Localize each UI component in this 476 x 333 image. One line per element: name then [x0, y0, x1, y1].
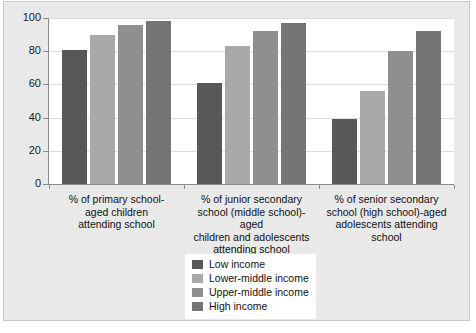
bar [416, 31, 441, 184]
legend-swatch-icon [192, 288, 203, 297]
bar [146, 21, 171, 184]
legend-swatch-icon [192, 302, 203, 311]
bar-group [332, 18, 441, 184]
x-axis-label-line: attending school [52, 218, 181, 231]
y-tick-mark [43, 51, 48, 52]
bar-group [62, 18, 171, 184]
legend-item[interactable]: Low income [192, 258, 308, 271]
legend-item[interactable]: Upper-middle income [192, 286, 308, 299]
y-tick-mark [43, 118, 48, 119]
x-tick-mark [49, 185, 50, 189]
x-axis-label-line: adolescents attending [322, 218, 451, 231]
y-tick-label: 60 [7, 78, 41, 89]
x-tick-mark [184, 185, 185, 189]
y-tick-mark [43, 84, 48, 85]
y-tick-mark [43, 151, 48, 152]
legend-label: Lower-middle income [209, 273, 309, 284]
y-tick-label: 20 [7, 145, 41, 156]
x-axis-label-line: school [322, 231, 451, 244]
x-axis-label: % of senior secondaryschool (high school… [322, 193, 451, 243]
legend-label: Low income [209, 259, 265, 270]
legend-swatch-icon [192, 260, 203, 269]
x-axis-label-line: % of junior secondary [187, 193, 316, 206]
chart-canvas: 020406080100 % of primary school-aged ch… [3, 1, 470, 321]
y-tick-mark [43, 18, 48, 19]
bar [118, 25, 143, 184]
plot-area [49, 18, 454, 184]
bar [197, 83, 222, 184]
legend-label: High income [209, 301, 267, 312]
x-tick-mark [319, 185, 320, 189]
x-tick-mark [454, 185, 455, 189]
legend-label: Upper-middle income [209, 287, 309, 298]
bar [388, 51, 413, 184]
x-axis-label: % of primary school-aged childrenattendi… [52, 193, 181, 231]
x-axis-label-line: school (middle school)-aged [187, 206, 316, 231]
bar [62, 50, 87, 184]
y-tick-label: 80 [7, 45, 41, 56]
y-tick-label: 100 [7, 12, 41, 23]
x-axis-label-line: aged children [52, 206, 181, 219]
x-axis-label-line: school (high school)-aged [322, 206, 451, 219]
bar [253, 31, 278, 184]
bar [332, 119, 357, 184]
y-tick-label: 0 [7, 178, 41, 189]
bar [225, 46, 250, 184]
x-axis-label: % of junior secondaryschool (middle scho… [187, 193, 316, 256]
bar [90, 35, 115, 184]
y-tick-label: 40 [7, 112, 41, 123]
bar-group [197, 18, 306, 184]
bar [281, 23, 306, 184]
x-axis-label-line: children and adolescents [187, 231, 316, 244]
legend-item[interactable]: High income [192, 300, 308, 313]
x-axis-label-line: % of senior secondary [322, 193, 451, 206]
legend-item[interactable]: Lower-middle income [192, 272, 308, 285]
x-axis-line [48, 184, 454, 185]
bar-chart-figure: 020406080100 % of primary school-aged ch… [0, 0, 476, 333]
legend: Low incomeLower-middle incomeUpper-middl… [185, 254, 316, 319]
bar [360, 91, 385, 184]
legend-swatch-icon [192, 274, 203, 283]
y-tick-mark [43, 184, 48, 185]
x-axis-label-line: % of primary school- [52, 193, 181, 206]
y-axis-line [48, 18, 49, 185]
